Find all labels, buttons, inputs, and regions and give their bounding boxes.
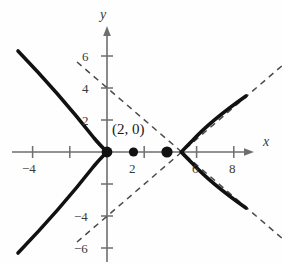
marked-points <box>102 146 173 157</box>
y-tick-label-4: 4 <box>82 82 89 95</box>
y-tick-label-6: 6 <box>82 50 89 63</box>
y-tick-label-2: 2 <box>82 114 89 127</box>
x-tick-label-neg4: −4 <box>22 162 36 175</box>
vertex-point-right <box>161 146 172 157</box>
y-tick-label-neg4: −4 <box>74 210 88 223</box>
hyperbola-figure: 6 4 2 −4 −6 −4 2 6 8 x y (2, 0) <box>0 0 282 265</box>
x-axis-label: x <box>263 135 269 149</box>
y-axis-label: y <box>100 8 106 22</box>
y-tick-label-neg6: −6 <box>74 242 88 255</box>
x-tick-label-2: 2 <box>129 162 136 175</box>
x-tick-label-6: 6 <box>192 162 199 175</box>
x-tick-label-8: 8 <box>229 162 236 175</box>
y-axis <box>103 26 111 262</box>
center-point <box>129 147 138 156</box>
center-point-annotation: (2, 0) <box>112 122 145 137</box>
vertex-point-left <box>102 147 113 158</box>
